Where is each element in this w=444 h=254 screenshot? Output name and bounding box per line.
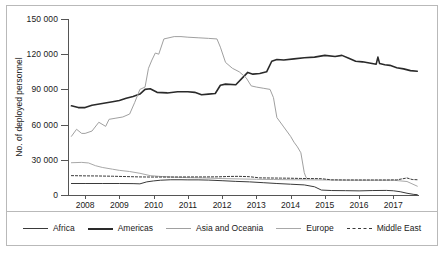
x-tick-label: 2013 [247, 200, 266, 210]
legend-label: Americas [118, 224, 153, 233]
legend-swatch-icon [88, 228, 113, 230]
y-tick-label: 30 000 [0, 155, 58, 165]
y-tick-mark [61, 54, 68, 55]
x-tick-label: 2017 [384, 200, 403, 210]
series-lines [68, 19, 419, 195]
legend-swatch-icon [23, 228, 48, 229]
x-tick-mark [291, 195, 292, 199]
x-tick-label: 2011 [179, 200, 197, 210]
legend-label: Europe [306, 224, 333, 233]
legend-label: Africa [53, 224, 75, 233]
series-line-asia-and-oceania [71, 37, 307, 179]
legend-item-middle-east[interactable]: Middle East [347, 224, 421, 233]
legend-item-asia-and-oceania[interactable]: Asia and Oceania [166, 224, 263, 233]
x-tick-label: 2009 [110, 200, 129, 210]
x-tick-mark [393, 195, 394, 199]
x-tick-mark [222, 195, 223, 199]
y-tick-label: 0 [0, 190, 58, 200]
legend-item-americas[interactable]: Americas [88, 224, 153, 233]
y-tick-mark [61, 125, 68, 126]
y-axis-label: No. of deployed personnel [12, 19, 26, 195]
chart-legend: AfricaAmericasAsia and OceaniaEuropeMidd… [6, 212, 438, 245]
x-tick-mark [359, 195, 360, 199]
x-tick-label: 2010 [144, 200, 163, 210]
legend-swatch-icon [276, 228, 301, 229]
y-tick-label: 90 000 [0, 84, 58, 94]
y-tick-mark [61, 160, 68, 161]
x-tick-mark [188, 195, 189, 199]
y-tick-label: 60 000 [0, 120, 58, 130]
x-tick-mark [154, 195, 155, 199]
legend-label: Asia and Oceania [196, 224, 263, 233]
x-tick-label: 2015 [315, 200, 334, 210]
x-tick-label: 2012 [213, 200, 232, 210]
y-tick-label: 120 000 [0, 49, 58, 59]
chart-figure: No. of deployed personnel 030 00060 0009… [0, 0, 444, 254]
series-line-africa [71, 180, 417, 195]
x-tick-mark [256, 195, 257, 199]
x-tick-label: 2014 [281, 200, 300, 210]
x-tick-mark [325, 195, 326, 199]
legend-swatch-icon [166, 228, 191, 229]
series-line-europe [71, 162, 417, 186]
y-tick-mark [61, 195, 68, 196]
legend-label: Middle East [377, 224, 421, 233]
x-tick-mark [85, 195, 86, 199]
legend-swatch-icon [347, 228, 372, 229]
series-line-americas [71, 55, 417, 107]
plot-area [68, 19, 419, 195]
y-tick-label: 150 000 [0, 14, 58, 24]
legend-item-europe[interactable]: Europe [276, 224, 333, 233]
x-tick-label: 2008 [76, 200, 95, 210]
x-tick-label: 2016 [350, 200, 369, 210]
legend-item-africa[interactable]: Africa [23, 224, 75, 233]
x-axis-line [68, 195, 419, 196]
x-tick-mark [119, 195, 120, 199]
y-tick-mark [61, 89, 68, 90]
y-tick-mark [61, 19, 68, 20]
